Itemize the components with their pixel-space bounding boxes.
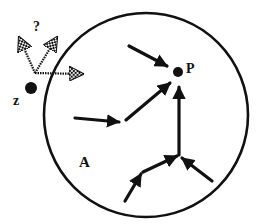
flow-arrow-1 bbox=[129, 46, 167, 66]
escape-arrow-1 bbox=[19, 37, 35, 73]
flow-arrow-2 bbox=[126, 83, 170, 120]
region-label: A bbox=[79, 155, 90, 170]
escape-arrow-2 bbox=[35, 37, 57, 73]
basin-diagram: ? P z A bbox=[0, 0, 259, 224]
question-mark-label: ? bbox=[33, 20, 40, 34]
escape-arrow-3 bbox=[35, 73, 83, 74]
flow-arrow-5 bbox=[143, 156, 177, 172]
region-a-boundary bbox=[44, 13, 248, 217]
flow-arrow-3 bbox=[75, 118, 119, 122]
attractor-point-p bbox=[173, 67, 183, 77]
attractor-label: P bbox=[186, 62, 195, 76]
flow-arrow-7 bbox=[125, 174, 141, 201]
flow-arrow-6 bbox=[182, 158, 212, 181]
external-point-z bbox=[25, 82, 37, 94]
external-point-label: z bbox=[13, 94, 19, 108]
